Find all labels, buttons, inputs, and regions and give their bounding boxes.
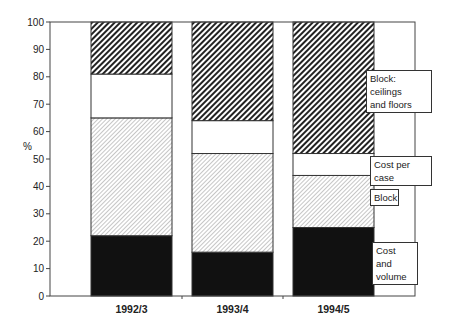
annotation-text: Block — [374, 191, 395, 204]
bar-segment — [91, 74, 172, 118]
y-tick-label: 30 — [33, 208, 45, 219]
bar-segment — [293, 22, 374, 154]
annotation-text: Cost per case — [374, 158, 428, 184]
y-tick-label: 50 — [33, 154, 45, 165]
y-tick-label: 0 — [38, 291, 44, 302]
bar-segment — [293, 154, 374, 176]
bars-group — [91, 22, 374, 296]
bar-segment — [91, 22, 172, 74]
y-axis-label: % — [23, 141, 32, 152]
bar-segment — [91, 118, 172, 236]
y-tick-label: 10 — [33, 263, 45, 274]
y-tick-label: 60 — [33, 126, 45, 137]
y-tick-label: 100 — [27, 17, 44, 28]
x-tick-label: 1992/3 — [115, 303, 147, 315]
y-tick-label: 70 — [33, 99, 45, 110]
annotation-ceilings-and-floors: Block: ceilings and floors — [366, 70, 432, 113]
annotation-text: Block: ceilings — [370, 72, 428, 98]
annotation-cost-and-volume: Cost and volume — [372, 242, 418, 285]
bar-segment — [192, 252, 273, 296]
annotation-text: volume — [376, 270, 414, 283]
y-tick-label: 90 — [33, 44, 45, 55]
bar-segment — [192, 22, 273, 121]
bar-segment — [293, 228, 374, 297]
y-tick-label: 80 — [33, 71, 45, 82]
annotation-text: and floors — [370, 98, 428, 111]
bar-segment — [293, 175, 374, 227]
bar-segment — [91, 236, 172, 296]
y-tick-label: 20 — [33, 236, 45, 247]
x-tick-label: 1993/4 — [216, 303, 248, 315]
y-axis: 0102030405060708090100 — [27, 17, 50, 302]
annotation-cost-per-case: Cost per case — [370, 156, 432, 186]
x-axis: 1992/31993/41994/5 — [115, 296, 349, 315]
annotation-block: Block — [370, 189, 399, 206]
annotation-text: Cost and — [376, 244, 414, 270]
y-tick-label: 40 — [33, 181, 45, 192]
bar-segment — [192, 121, 273, 154]
bar-segment — [192, 154, 273, 253]
x-tick-label: 1994/5 — [317, 303, 349, 315]
